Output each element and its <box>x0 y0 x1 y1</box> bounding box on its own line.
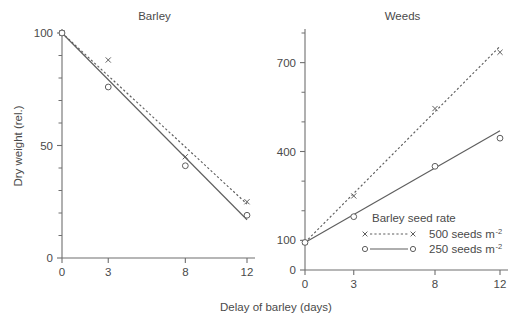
legend-entry-label: 500 seeds m <box>429 228 495 240</box>
data-point-circle <box>182 163 188 169</box>
x-tick-label: 12 <box>241 266 254 278</box>
panel-title-barley: Barley <box>138 10 171 22</box>
y-tick-label: 50 <box>40 140 53 152</box>
x-tick-label: 0 <box>59 266 65 278</box>
x-axis-title: Delay of barley (days) <box>220 301 332 313</box>
data-point-circle <box>302 240 308 246</box>
figure-container: Barley05010003812Weeds010040070003812Bar… <box>0 0 529 327</box>
data-point-circle <box>497 135 503 141</box>
y-tick-label: 100 <box>277 234 296 246</box>
legend-title: Barley seed rate <box>372 212 456 224</box>
y-tick-label: 0 <box>47 252 53 264</box>
data-point-cross <box>106 57 111 62</box>
x-tick-label: 3 <box>351 278 357 290</box>
x-tick-label: 8 <box>182 266 188 278</box>
legend-marker-circle <box>362 246 367 251</box>
data-point-circle <box>432 163 438 169</box>
x-tick-label: 12 <box>494 278 507 290</box>
series-line-circle <box>305 131 500 243</box>
chart-svg: Barley05010003812Weeds010040070003812Bar… <box>0 0 529 327</box>
data-point-circle <box>351 214 357 220</box>
x-tick-label: 8 <box>432 278 438 290</box>
y-tick-label: 0 <box>290 264 296 276</box>
data-point-cross <box>432 106 437 111</box>
legend-marker-circle <box>410 246 415 251</box>
data-point-circle <box>244 212 250 218</box>
x-tick-label: 3 <box>105 266 111 278</box>
y-axis-title: Dry weight (rel.) <box>12 105 24 186</box>
y-tick-label: 400 <box>277 146 296 158</box>
legend-entry-superscript: -2 <box>496 227 503 236</box>
legend-entry-superscript: -2 <box>496 242 503 251</box>
legend: Barley seed rate500 seeds m-2250 seeds m… <box>362 212 502 255</box>
data-point-circle <box>105 84 111 90</box>
y-tick-label: 100 <box>34 27 53 39</box>
series-line-circle <box>62 33 247 220</box>
legend-entry-label: 250 seeds m <box>429 243 495 255</box>
y-tick-label: 700 <box>277 57 296 69</box>
data-point-circle <box>59 30 65 36</box>
legend-marker-cross <box>411 232 416 237</box>
legend-marker-cross <box>363 232 368 237</box>
x-tick-label: 0 <box>302 278 308 290</box>
data-point-cross <box>497 50 502 55</box>
series-line-cross <box>62 33 247 204</box>
panel-title-weeds: Weeds <box>385 10 421 22</box>
panel-barley: Barley05010003812 <box>34 10 255 278</box>
